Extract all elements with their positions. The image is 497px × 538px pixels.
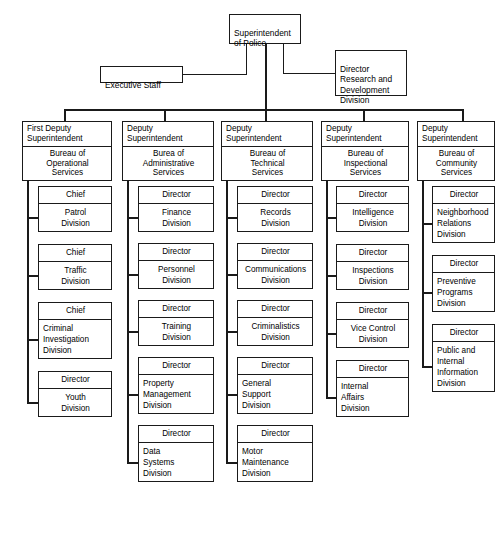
connector-executive-staff-link <box>183 74 247 75</box>
bureau-head-title-1: First Deputy Superintendent <box>23 122 111 146</box>
connector-spine-3 <box>226 181 228 464</box>
bureau-head-2[interactable]: Deputy SuperintendentBurea of Administra… <box>122 121 214 181</box>
unit-box-2-3[interactable]: DirectorTraining Division <box>138 300 214 346</box>
unit-rank-5-3: Director <box>433 325 494 341</box>
unit-box-1-2[interactable]: ChiefTraffic Division <box>38 244 112 290</box>
unit-rank-1-4: Director <box>39 372 111 388</box>
unit-division-2-4: Property Management Division <box>139 374 213 415</box>
bureau-head-bureau-5: Bureau of Community Services <box>418 146 494 182</box>
bureau-head-5[interactable]: Deputy SuperintendentBureau of Community… <box>417 121 495 181</box>
unit-rank-4-4: Director <box>337 361 408 377</box>
connector-superintendent-main-drop <box>265 44 267 110</box>
node-research-development-division-label: Director Research and Development Divisi… <box>340 64 392 105</box>
bureau-head-title-5: Deputy Superintendent <box>418 122 494 146</box>
unit-box-1-4[interactable]: DirectorYouth Division <box>38 371 112 417</box>
unit-box-3-4[interactable]: DirectorGeneral Support Division <box>237 357 313 414</box>
unit-box-3-3[interactable]: DirectorCriminalistics Division <box>237 300 313 346</box>
unit-box-5-2[interactable]: DirectorPreventive Programs Division <box>432 255 495 312</box>
unit-division-3-5: Motor Maintenance Division <box>238 442 312 483</box>
unit-division-1-4: Youth Division <box>39 388 111 418</box>
unit-division-2-2: Personnel Division <box>139 260 213 290</box>
unit-division-2-5: Data Systems Division <box>139 442 213 483</box>
unit-box-3-5[interactable]: DirectorMotor Maintenance Division <box>237 425 313 482</box>
unit-box-2-2[interactable]: DirectorPersonnel Division <box>138 243 214 289</box>
bureau-head-title-4: Deputy Superintendent <box>322 122 408 146</box>
connector-spine-5 <box>422 181 424 368</box>
unit-division-4-1: Intelligence Division <box>337 203 408 233</box>
unit-rank-3-2: Director <box>238 244 312 260</box>
connector-bus-drop-4 <box>363 109 365 121</box>
bureau-head-bureau-4: Bureau of Inspectional Services <box>322 146 408 182</box>
connector-bus-drop-5 <box>462 109 464 121</box>
unit-rank-3-4: Director <box>238 358 312 374</box>
connector-research-development-link <box>283 73 336 74</box>
connector-superintendent-right-drop <box>283 44 284 74</box>
unit-division-4-4: Internal Affairs Division <box>337 377 408 418</box>
bureau-head-1[interactable]: First Deputy SuperintendentBureau of Ope… <box>22 121 112 181</box>
unit-box-4-3[interactable]: DirectorVice Control Division <box>336 302 409 348</box>
node-superintendent-of-police[interactable]: Superintendent of Police <box>229 14 301 44</box>
unit-box-4-2[interactable]: DirectorInspections Division <box>336 244 409 290</box>
unit-rank-1-3: Chief <box>39 303 111 319</box>
unit-box-1-3[interactable]: ChiefCriminal Investigation Division <box>38 302 112 359</box>
unit-division-2-3: Training Division <box>139 317 213 347</box>
unit-box-5-1[interactable]: DirectorNeighborhood Relations Division <box>432 186 495 243</box>
unit-box-2-4[interactable]: DirectorProperty Management Division <box>138 357 214 414</box>
bureau-head-3[interactable]: Deputy SuperintendentBureau of Technical… <box>221 121 313 181</box>
unit-rank-1-2: Chief <box>39 245 111 261</box>
bureau-head-bureau-1: Bureau of Operational Services <box>23 146 111 182</box>
unit-rank-3-1: Director <box>238 187 312 203</box>
unit-rank-2-5: Director <box>139 426 213 442</box>
connector-spine-1 <box>27 181 29 404</box>
unit-rank-3-5: Director <box>238 426 312 442</box>
org-chart: Superintendent of Police Executive Staff… <box>0 0 497 538</box>
bureau-head-4[interactable]: Deputy SuperintendentBureau of Inspectio… <box>321 121 409 181</box>
unit-rank-3-3: Director <box>238 301 312 317</box>
unit-rank-2-2: Director <box>139 244 213 260</box>
unit-box-4-1[interactable]: DirectorIntelligence Division <box>336 186 409 232</box>
unit-box-2-1[interactable]: DirectorFinance Division <box>138 186 214 232</box>
unit-rank-4-3: Director <box>337 303 408 319</box>
unit-division-5-1: Neighborhood Relations Division <box>433 203 494 244</box>
connector-bus-drop-1 <box>64 109 66 121</box>
unit-division-3-4: General Support Division <box>238 374 312 415</box>
unit-box-2-5[interactable]: DirectorData Systems Division <box>138 425 214 482</box>
bureau-head-title-2: Deputy Superintendent <box>123 122 213 146</box>
unit-rank-4-2: Director <box>337 245 408 261</box>
bureau-head-bureau-2: Burea of Administrative Services <box>123 146 213 182</box>
unit-rank-5-1: Director <box>433 187 494 203</box>
unit-division-2-1: Finance Division <box>139 203 213 233</box>
unit-division-1-2: Traffic Division <box>39 261 111 291</box>
node-research-development-division[interactable]: Director Research and Development Divisi… <box>335 50 407 96</box>
connector-bureau-bus <box>64 109 464 111</box>
bureau-head-title-3: Deputy Superintendent <box>222 122 312 146</box>
connector-spine-4 <box>326 181 328 399</box>
connector-superintendent-left-drop <box>246 44 247 75</box>
unit-box-3-2[interactable]: DirectorCommunications Division <box>237 243 313 289</box>
unit-division-1-3: Criminal Investigation Division <box>39 319 111 360</box>
unit-division-4-3: Vice Control Division <box>337 319 408 349</box>
unit-rank-2-4: Director <box>139 358 213 374</box>
node-executive-staff-label: Executive Staff <box>105 80 161 90</box>
unit-division-5-2: Preventive Programs Division <box>433 272 494 313</box>
unit-division-5-3: Public and Internal Information Division <box>433 341 494 393</box>
unit-division-1-1: Patrol Division <box>39 203 111 233</box>
connector-spine-2 <box>127 181 129 464</box>
connector-bus-drop-2 <box>164 109 166 121</box>
unit-rank-2-1: Director <box>139 187 213 203</box>
unit-box-4-4[interactable]: DirectorInternal Affairs Division <box>336 360 409 417</box>
node-executive-staff[interactable]: Executive Staff <box>100 66 183 83</box>
unit-division-3-1: Records Division <box>238 203 312 233</box>
unit-division-3-2: Communications Division <box>238 260 312 290</box>
bureau-head-bureau-3: Bureau of Technical Services <box>222 146 312 182</box>
unit-rank-5-2: Director <box>433 256 494 272</box>
unit-rank-1-1: Chief <box>39 187 111 203</box>
unit-division-4-2: Inspections Division <box>337 261 408 291</box>
unit-division-3-3: Criminalistics Division <box>238 317 312 347</box>
unit-box-5-3[interactable]: DirectorPublic and Internal Information … <box>432 324 495 392</box>
unit-rank-4-1: Director <box>337 187 408 203</box>
unit-box-3-1[interactable]: DirectorRecords Division <box>237 186 313 232</box>
connector-bus-drop-3 <box>265 109 267 121</box>
unit-box-1-1[interactable]: ChiefPatrol Division <box>38 186 112 232</box>
unit-rank-2-3: Director <box>139 301 213 317</box>
